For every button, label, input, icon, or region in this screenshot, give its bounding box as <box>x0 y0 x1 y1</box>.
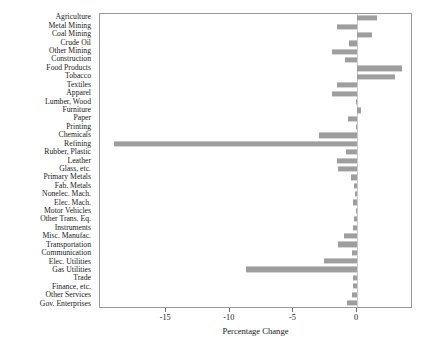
bar <box>357 16 377 21</box>
bar-row <box>100 123 411 131</box>
bar-row <box>100 131 411 139</box>
bar <box>356 208 357 213</box>
bar <box>337 158 357 163</box>
bar-row <box>100 106 411 114</box>
bar <box>353 225 357 230</box>
axis-tick-label: -15 <box>160 313 171 322</box>
category-axis-labels: AgricultureMetal MiningCoal MiningCrude … <box>0 13 95 308</box>
bar-row <box>100 156 411 164</box>
bar <box>349 41 357 46</box>
bar <box>332 91 357 96</box>
bar <box>354 217 357 222</box>
bar <box>319 133 357 138</box>
axis-tick <box>292 308 293 312</box>
bar-row <box>100 31 411 39</box>
bar <box>337 83 357 88</box>
bar <box>352 250 357 255</box>
axis-tick <box>229 308 230 312</box>
bar-row <box>100 89 411 97</box>
bar <box>324 258 357 263</box>
bar-row <box>100 56 411 64</box>
bar-row <box>100 14 411 22</box>
bar-row <box>100 173 411 181</box>
bar <box>344 233 357 238</box>
bar <box>338 166 357 171</box>
axis-tick-label: -10 <box>223 313 234 322</box>
category-label: Apparel <box>0 89 95 97</box>
bar <box>357 74 395 79</box>
bar-row <box>100 232 411 240</box>
bar <box>355 191 357 196</box>
category-label: Communication <box>0 249 95 257</box>
bar <box>354 183 357 188</box>
axis-tick <box>356 308 357 312</box>
bar-row <box>100 64 411 72</box>
axis-tick <box>165 308 166 312</box>
bar <box>352 292 357 297</box>
bar <box>357 32 372 37</box>
bar-row <box>100 48 411 56</box>
bar-row <box>100 240 411 248</box>
bar <box>338 242 357 247</box>
bar <box>356 99 357 104</box>
bar <box>114 141 357 146</box>
bar-chart: AgricultureMetal MiningCoal MiningCrude … <box>0 0 423 350</box>
bar <box>347 300 357 305</box>
bar-row <box>100 290 411 298</box>
bar <box>345 57 357 62</box>
bar <box>348 116 357 121</box>
bar <box>353 200 357 205</box>
bar <box>353 275 357 280</box>
bar <box>246 267 357 272</box>
bar-row <box>100 165 411 173</box>
bar-row <box>100 198 411 206</box>
bar-row <box>100 282 411 290</box>
bar-row <box>100 265 411 273</box>
category-label: Gov. Enterprises <box>0 299 95 307</box>
axis-tick-label: -5 <box>289 313 296 322</box>
axis-tick-label: 0 <box>354 313 358 322</box>
bar <box>332 49 357 54</box>
bar-row <box>100 257 411 265</box>
bar-series <box>100 14 411 307</box>
bar-row <box>100 22 411 30</box>
bar-row <box>100 190 411 198</box>
bar-row <box>100 98 411 106</box>
bar-row <box>100 215 411 223</box>
bar-row <box>100 148 411 156</box>
plot-area <box>99 13 412 308</box>
bar-row <box>100 223 411 231</box>
bar-row <box>100 207 411 215</box>
bar-row <box>100 299 411 307</box>
x-axis-title: Percentage Change <box>99 326 412 336</box>
bar <box>337 24 357 29</box>
bar <box>353 284 357 289</box>
bar <box>351 175 357 180</box>
bar-row <box>100 182 411 190</box>
bar-row <box>100 39 411 47</box>
category-label: Coal Mining <box>0 30 95 38</box>
category-label: Rubber, Plastic <box>0 148 95 156</box>
bar-row <box>100 140 411 148</box>
bar-row <box>100 249 411 257</box>
bar <box>357 66 402 71</box>
bar-row <box>100 115 411 123</box>
bar-row <box>100 73 411 81</box>
bar <box>356 124 357 129</box>
bar-row <box>100 81 411 89</box>
bar-row <box>100 274 411 282</box>
bar <box>357 108 361 113</box>
bar <box>346 150 357 155</box>
